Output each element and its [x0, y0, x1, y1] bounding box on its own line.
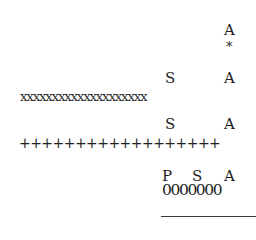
asterisk-marker: *: [226, 39, 233, 54]
label-a-block2: A: [224, 71, 235, 86]
plus-row: ++++++++++++++++++: [19, 136, 220, 150]
label-s-block3: S: [165, 117, 175, 132]
x-row: xxxxxxxxxxxxxxxxxxxx: [20, 89, 146, 103]
label-s-block2: S: [165, 71, 175, 86]
label-a-block4: A: [224, 169, 235, 184]
label-a-block3: A: [224, 117, 235, 132]
zero-row: 0000000: [162, 183, 221, 197]
label-a-top: A: [224, 23, 235, 38]
underline-rule: [161, 216, 256, 217]
